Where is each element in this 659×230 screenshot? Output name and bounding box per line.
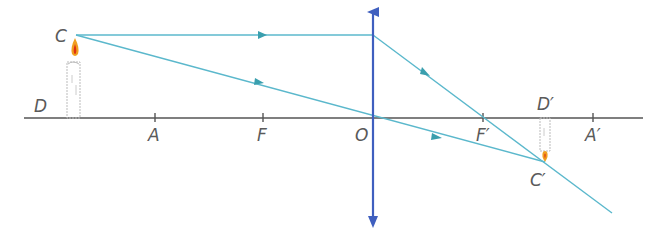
lens-bottom-arrow	[368, 216, 378, 228]
label-F: F	[257, 125, 267, 145]
object-candle	[67, 38, 80, 118]
label-F-prime: F′	[476, 125, 490, 145]
flame-icon	[542, 151, 547, 162]
label-D: D	[34, 96, 47, 116]
label-A-prime: A′	[584, 125, 601, 145]
label-C-prime: C′	[530, 170, 546, 190]
ray-direction-arrows	[254, 31, 442, 140]
flame-icon	[71, 38, 78, 56]
ray-diagram: C D A F O F′ A′ D′ C′	[0, 0, 659, 230]
label-O: O	[355, 125, 368, 145]
image-candle	[540, 118, 550, 162]
label-D-prime: D′	[537, 94, 554, 114]
ray-through-centre	[76, 35, 545, 162]
label-A: A	[147, 125, 160, 145]
ray-parallel-refracted	[373, 35, 612, 213]
label-C: C	[55, 26, 67, 46]
